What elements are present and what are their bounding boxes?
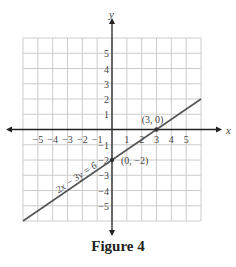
arrow-left-icon [6,127,12,133]
y-axis-label: y [108,8,114,20]
point-label: (0, −2) [121,155,148,167]
x-tick-label: 3 [154,134,159,145]
y-tick-label: −4 [98,186,109,197]
y-tick-label: 5 [104,48,109,59]
y-tick-label: −5 [98,201,109,212]
x-tick-label: −4 [47,134,58,145]
x-tick-label: −3 [62,134,73,145]
y-tick-label: −3 [98,170,109,181]
y-tick-label: 3 [104,79,109,90]
data-point [110,158,114,162]
point-label: (3, 0) [142,114,164,126]
arrow-down-icon [109,230,115,236]
equation-label: 2x − 3y = 6 [54,159,99,195]
arrow-right-icon [216,127,222,133]
figure-caption: Figure 4 [0,238,236,255]
y-tick-label: 1 [104,109,109,120]
x-tick-label: 5 [184,134,189,145]
y-tick-label: −2 [98,155,109,166]
x-axis-label: x [225,124,231,136]
x-tick-label: −5 [33,134,44,145]
x-tick-label: 1 [124,134,129,145]
x-tick-label: −2 [77,134,88,145]
y-tick-label: 4 [104,64,109,75]
data-point [154,127,158,131]
x-tick-label: 4 [169,134,174,145]
y-tick-label: 2 [104,94,109,105]
y-tick-label: −1 [98,140,109,151]
coordinate-plane: xy−5−4−3−2−11234554321−1−2−3−4−5(3, 0)(0… [0,0,236,267]
